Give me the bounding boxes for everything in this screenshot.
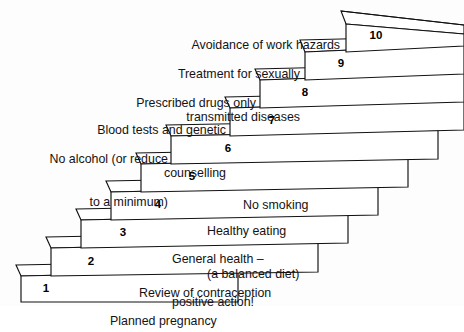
step-label-9-line-2: transmitted diseases <box>178 110 300 124</box>
step-label-10: Avoidance of work hazards <box>191 10 340 81</box>
step-number-8: 8 <box>302 86 309 98</box>
step-label-7-line-2: counselling <box>97 166 226 180</box>
step-label-4-line-2: (a balanced diet) <box>207 267 299 281</box>
step-number-1: 1 <box>43 282 50 294</box>
step-label-5-line-1: No smoking <box>243 198 308 212</box>
step-number-2: 2 <box>88 255 95 267</box>
step-label-5: No smoking <box>243 170 308 241</box>
step-number-10: 10 <box>370 29 383 41</box>
step-label-10-line-1: Avoidance of work hazards <box>191 38 340 52</box>
step-shape-10 <box>341 11 464 52</box>
